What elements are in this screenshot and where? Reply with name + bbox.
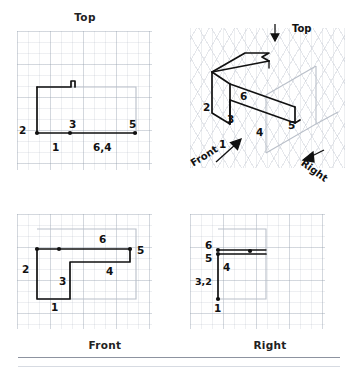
front-label-3: 3 [59, 276, 66, 287]
iso-label-4: 4 [256, 127, 263, 138]
right-label-1: 1 [214, 303, 221, 314]
right-label-6: 6 [205, 240, 212, 251]
iso-label-6: 6 [240, 91, 247, 102]
top-label-5: 5 [129, 119, 136, 130]
front-label-5: 5 [137, 245, 144, 256]
iso-label-2: 2 [203, 102, 210, 113]
front-label-6: 6 [99, 234, 106, 245]
footer-rule [18, 357, 340, 358]
top-label-3: 3 [69, 119, 76, 130]
right-label-5: 5 [205, 253, 212, 264]
front-label-4: 4 [106, 266, 113, 277]
iso-label-5: 5 [288, 120, 295, 131]
front-label-1: 1 [51, 302, 58, 313]
top-view-drawing [17, 31, 152, 170]
iso-label-3: 3 [227, 114, 234, 125]
top-label-2: 2 [19, 125, 26, 136]
front-label-2: 2 [22, 264, 29, 275]
front-view-drawing [17, 214, 152, 329]
right-label-4: 4 [223, 262, 230, 273]
footer-rule-secondary [18, 366, 340, 367]
right-view-drawing [190, 214, 325, 329]
top-view-title: Top [55, 11, 115, 23]
drawing-sheet: Top 2 1 3 6,4 5 [0, 0, 355, 370]
right-label-3-2: 3,2 [195, 277, 212, 287]
top-label-1: 1 [52, 142, 59, 153]
iso-label-1: 1 [219, 139, 226, 150]
top-label-6-4: 6,4 [93, 142, 112, 153]
isometric-top-axis-arrow [268, 22, 294, 46]
isometric-axis-label-top: Top [292, 24, 312, 34]
right-view-title: Right [240, 339, 300, 351]
front-view-title: Front [75, 339, 135, 351]
